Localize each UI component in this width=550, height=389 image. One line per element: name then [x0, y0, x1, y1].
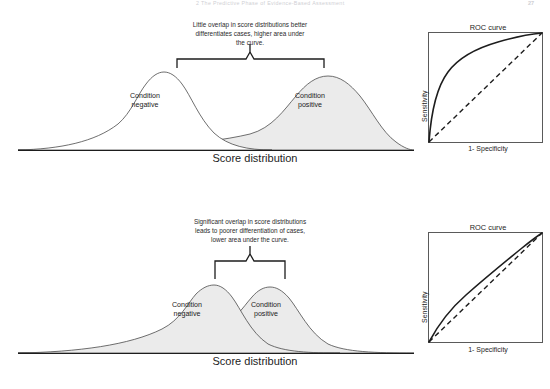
roc-y-axis-label-bottom: Sensitivity	[421, 291, 428, 323]
annotation-text-significant-overlap: Significant overlap in score distributio…	[148, 217, 352, 245]
panel-little-overlap: Little overlap in score distributions be…	[0, 10, 550, 195]
label-condition-positive-top: Condition positive	[277, 92, 343, 111]
annotation-text-little-overlap: Little overlap in score distributions be…	[148, 20, 352, 48]
label-condition-negative-bottom: Condition negative	[158, 301, 216, 320]
panel-significant-overlap: Significant overlap in score distributio…	[0, 205, 550, 389]
roc-title-top: ROC curve	[448, 23, 528, 32]
annotation-bracket-bottom	[215, 246, 285, 279]
roc-y-axis-label-top: Sensitivity	[421, 90, 428, 122]
label-condition-negative-top: Condition negative	[112, 92, 178, 111]
label-condition-positive-bottom: Condition positive	[237, 301, 295, 320]
roc-x-axis-label-top: 1- Specificity	[448, 145, 528, 152]
axis-caption-score-distribution-top: Score distribution	[140, 152, 370, 164]
roc-title-bottom: ROC curve	[448, 223, 528, 232]
page-number: 27	[528, 0, 534, 6]
running-header-title: 2 The Predictive Phase of Evidence-Based…	[196, 0, 344, 6]
roc-x-axis-label-bottom: 1- Specificity	[448, 346, 528, 353]
axis-caption-score-distribution-bottom: Score distribution	[140, 355, 370, 367]
